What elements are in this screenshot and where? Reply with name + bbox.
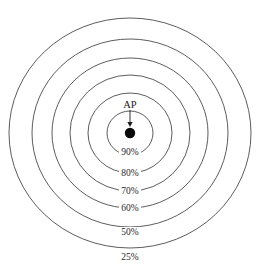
ap-label: AP: [123, 99, 137, 110]
ap-center-dot: [125, 128, 135, 138]
ring-label-80pct: 80%: [121, 168, 139, 178]
ring-label-60pct: 60%: [121, 203, 139, 213]
ap-arrow-head-icon: [127, 122, 132, 127]
ring-label-70pct: 70%: [121, 186, 139, 196]
ring-label-25pct: 25%: [121, 252, 139, 262]
target-diagram: AP 90%80%70%60%50%25%: [0, 0, 260, 275]
ring-label-90pct: 90%: [121, 147, 139, 157]
ring-labels-group: 90%80%70%60%50%25%: [119, 147, 141, 262]
concentric-rings-svg: AP 90%80%70%60%50%25%: [0, 0, 260, 275]
ring-label-50pct: 50%: [121, 227, 139, 237]
center-marker-group: AP: [123, 99, 137, 138]
